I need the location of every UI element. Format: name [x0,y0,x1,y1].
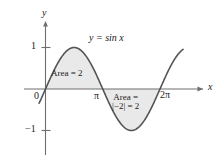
area-label-positive: Area = 2 [51,69,83,78]
area-label-negative: Area = |−2| = 2 [112,93,139,112]
y-tick-label-minus-one: −1 [25,124,36,135]
y-axis-label: y [42,8,46,19]
y-axis-arrowhead [43,21,48,27]
x-tick-label-pi: π [94,91,99,102]
sine-area-figure: y x 1 −1 0 π 2π y = sin x Area = 2 Area … [0,0,222,165]
x-axis-label: x [208,82,212,93]
area-label-negative-line2: |−2| = 2 [112,102,139,111]
x-tick-label-two-pi: 2π [160,90,170,101]
y-tick-label-one: 1 [31,41,36,52]
curve-equation-label: y = sin x [89,33,124,44]
origin-label: 0 [34,91,39,102]
plot-canvas [0,0,222,165]
x-axis-arrowhead [198,87,204,92]
